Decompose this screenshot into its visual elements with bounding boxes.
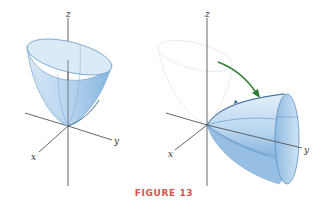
left-x-label: x [31, 152, 36, 162]
right-x-label: x [168, 149, 173, 159]
figure-canvas: z y x z y x [0, 0, 328, 212]
right-back-axis [166, 113, 207, 125]
right-x-axis [175, 125, 207, 150]
rotation-arrowhead-icon [252, 89, 260, 98]
right-y-label: y [303, 145, 310, 155]
left-y-axis [68, 126, 112, 140]
left-x-axis [39, 126, 68, 152]
left-panel: z y x [24, 9, 120, 186]
right-z-label: z [204, 9, 210, 19]
right-panel: z y x [155, 9, 310, 186]
rotation-arrow [218, 62, 257, 94]
right-paraboloid-rim [275, 94, 299, 184]
left-z-label: z [65, 9, 71, 19]
figure-caption: FIGURE 13 [0, 188, 328, 198]
left-y-label: y [113, 136, 120, 146]
